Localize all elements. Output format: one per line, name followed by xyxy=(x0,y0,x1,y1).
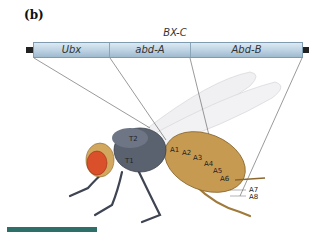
svg-text:A3: A3 xyxy=(193,154,202,162)
svg-text:T1: T1 xyxy=(124,157,134,165)
eye-icon xyxy=(87,151,107,175)
svg-text:A1: A1 xyxy=(170,146,179,154)
svg-text:A2: A2 xyxy=(182,149,191,157)
fly-illustration: T1 T2 A1 A2 A3 A4 A5 A6 A7 A8 xyxy=(0,0,325,232)
svg-text:T2: T2 xyxy=(128,135,138,143)
wing-icon xyxy=(145,72,281,145)
accent-bar xyxy=(7,227,97,232)
svg-text:A8: A8 xyxy=(249,193,258,201)
svg-text:A6: A6 xyxy=(220,175,230,183)
svg-text:A5: A5 xyxy=(213,167,222,175)
figure: (b) BX-C Ubx abd-A Abd-B xyxy=(0,0,325,232)
